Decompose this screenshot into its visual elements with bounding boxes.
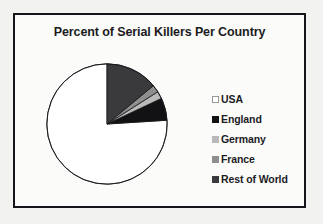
chart-frame: Percent of Serial Killers Per Country US…	[13, 13, 306, 208]
pie-chart	[46, 63, 168, 185]
legend-label-england: England	[221, 114, 262, 125]
legend-swatch-france	[212, 156, 219, 163]
legend-swatch-germany	[212, 136, 219, 143]
legend-swatch-rest-of-world	[212, 176, 219, 183]
legend-item-france[interactable]: France	[212, 149, 312, 169]
legend: USA England Germany France Rest of World	[212, 89, 312, 189]
legend-label-germany: Germany	[221, 134, 266, 145]
pie-slice-group	[47, 64, 167, 184]
chart-title: Percent of Serial Killers Per Country	[15, 25, 304, 39]
legend-swatch-england	[212, 116, 219, 123]
legend-label-france: France	[221, 154, 255, 165]
legend-item-germany[interactable]: Germany	[212, 129, 312, 149]
legend-swatch-usa	[212, 96, 219, 103]
legend-label-rest-of-world: Rest of World	[221, 174, 288, 185]
pie-chart-svg	[46, 63, 168, 185]
legend-label-usa: USA	[221, 94, 243, 105]
legend-item-england[interactable]: England	[212, 109, 312, 129]
legend-item-rest-of-world[interactable]: Rest of World	[212, 169, 312, 189]
legend-item-usa[interactable]: USA	[212, 89, 312, 109]
